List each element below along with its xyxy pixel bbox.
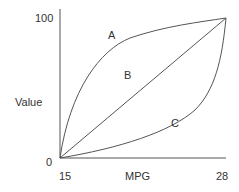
x-axis-label: MPG	[125, 170, 150, 182]
utility-curves-chart: 100 0 15 28 MPG Value A B C	[0, 0, 239, 192]
curve-b-label: B	[124, 69, 131, 81]
x-tick-28: 28	[216, 170, 228, 182]
curve-c-label: C	[171, 117, 179, 129]
y-tick-100: 100	[35, 12, 53, 24]
curve-b	[60, 18, 226, 158]
y-axis-label: Value	[15, 96, 42, 108]
y-tick-0: 0	[46, 156, 52, 168]
curve-a-label: A	[108, 29, 116, 41]
x-tick-15: 15	[59, 170, 71, 182]
